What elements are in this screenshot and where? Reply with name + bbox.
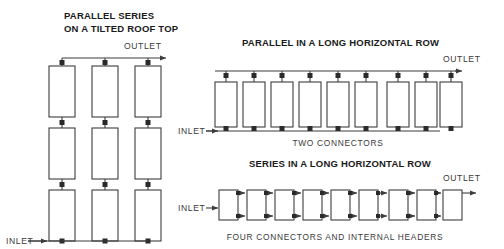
diagram-1-joint [103,60,108,65]
diagram-1-joint [60,120,65,125]
diagram-1-panel [135,128,161,179]
diagram-1-joint [103,182,108,187]
diagram-1-inlet-label: INLET [6,236,34,246]
diagram-3-inlet-label: INLET [178,203,206,213]
diagram-2-title: PARALLEL IN A LONG HORIZONTAL ROW [242,37,439,48]
diagram-2-joint [336,73,341,78]
diagram-3-panel [389,190,408,220]
diagram-2-joint [308,73,313,78]
diagram-2-joint [224,126,229,131]
diagram-3-joint [292,191,296,195]
diagram-2-joint [424,73,429,78]
diagram-parallel-series-tilted-roof: PARALLEL SERIES ON A TILTED ROOF TOP OUT… [6,10,179,246]
diagram-2-joint [280,126,285,131]
diagram-2-joint [449,126,454,131]
diagram-2-joint [364,73,369,78]
diagram-2-joint [224,73,229,78]
diagram-2-panel [327,82,349,127]
diagram-3-joint [406,214,410,218]
diagram-3-caption: FOUR CONNECTORS AND INTERNAL HEADERS [227,232,443,242]
diagram-2-joint [396,126,401,131]
diagram-2-panel [299,82,321,127]
diagram-1-panel [135,190,161,241]
diagram-2-joint [364,126,369,131]
diagram-1-title-line-1: PARALLEL SERIES [64,10,154,21]
diagram-2-joint [449,73,454,78]
diagram-2-caption: TWO CONNECTORS [292,138,383,148]
diagram-3-joint [236,191,240,195]
diagram-1-panel [49,66,75,117]
diagram-1-panel [49,128,75,179]
diagram-1-title-line-2: ON A TILTED ROOF TOP [64,23,179,34]
diagram-3-panel [443,190,462,220]
diagram-2-outlet-label: OUTLET [443,54,481,64]
diagram-3-joint [292,214,296,218]
diagram-2-panel [243,82,265,127]
diagram-1-joint [60,182,65,187]
diagram-1-panel [49,190,75,241]
diagram-3-panel [303,190,322,220]
diagram-2-panel [440,82,462,127]
diagram-3-title: SERIES IN A LONG HORIZONTAL ROW [249,158,431,169]
diagram-2-joint [252,73,257,78]
diagram-3-joint [376,214,380,218]
diagram-1-joint [103,120,108,125]
diagram-series-long-horizontal-row: SERIES IN A LONG HORIZONTAL ROW OUTLET I… [178,158,481,242]
diagram-3-joint [434,214,438,218]
diagram-3-panel [219,190,238,220]
diagram-3-joint [320,191,324,195]
diagram-2-panel [355,82,377,127]
diagram-1-joint [146,182,151,187]
diagram-2-joint [396,73,401,78]
diagram-2-panel [387,82,409,127]
diagram-3-panel [417,190,436,220]
diagram-2-joint [308,126,313,131]
diagram-3-joint [348,191,352,195]
diagram-1-joint [146,60,151,65]
diagram-2-panel-row [215,71,462,131]
diagram-3-joint [264,214,268,218]
diagram-1-outlet-label: OUTLET [124,41,162,51]
diagram-1-panel [135,66,161,117]
diagram-3-joint [434,191,438,195]
diagram-parallel-long-horizontal-row: PARALLEL IN A LONG HORIZONTAL ROW OUTLET… [178,37,481,148]
diagram-3-joint [406,191,410,195]
diagram-3-joint [236,214,240,218]
diagram-2-joint [424,126,429,131]
diagram-3-joint [264,191,268,195]
diagram-3-panel-row [219,190,462,220]
diagram-canvas: PARALLEL SERIES ON A TILTED ROOF TOP OUT… [0,0,504,249]
diagram-1-joint [146,120,151,125]
diagram-2-panel [415,82,437,127]
diagram-3-outlet-label: OUTLET [443,173,481,183]
diagram-3-panel [331,190,350,220]
diagram-3-panel [275,190,294,220]
diagram-1-panel [92,190,118,241]
diagram-3-joint [348,214,352,218]
diagram-2-inlet-label: INLET [178,126,206,136]
diagram-2-panel [215,82,237,127]
diagram-3-joint [320,214,324,218]
solar-collector-piping-diagram: PARALLEL SERIES ON A TILTED ROOF TOP OUT… [0,0,504,249]
diagram-3-panel [359,190,378,220]
diagram-2-joint [336,126,341,131]
diagram-3-joint [376,191,380,195]
diagram-3-panel [247,190,266,220]
diagram-1-joint [60,60,65,65]
diagram-2-joint [252,126,257,131]
diagram-2-panel [271,82,293,127]
diagram-1-panel [92,128,118,179]
diagram-2-joint [280,73,285,78]
diagram-1-panel [92,66,118,117]
